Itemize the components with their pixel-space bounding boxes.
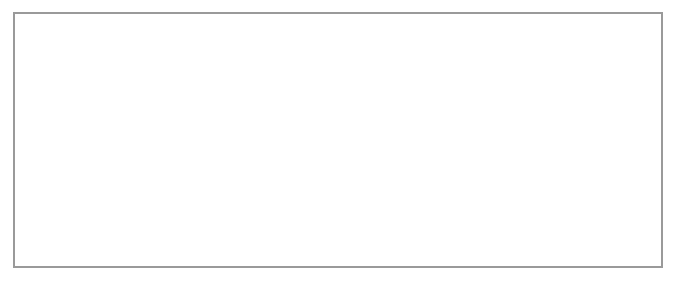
breadboard-diagram bbox=[0, 0, 674, 284]
